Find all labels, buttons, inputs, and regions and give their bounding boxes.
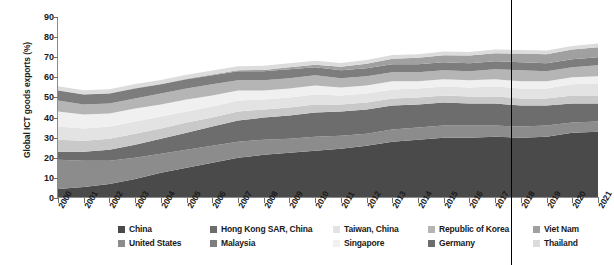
legend-item-united-states[interactable]: United States: [118, 239, 181, 248]
y-tick-label: 80: [32, 33, 54, 42]
y-tick-mark: [54, 97, 58, 98]
y-tick-mark: [54, 138, 58, 139]
y-tick-mark: [54, 198, 58, 199]
y-tick-mark: [54, 118, 58, 119]
plot-area: [58, 17, 598, 198]
y-tick-mark: [54, 77, 58, 78]
legend-item-hong-kong-sar-china[interactable]: Hong Kong SAR, China: [210, 225, 312, 234]
legend-item-malaysia[interactable]: Malaysia: [210, 239, 255, 248]
legend-label: China: [129, 225, 152, 234]
legend-label: United States: [129, 239, 181, 248]
legend-swatch-icon: [333, 226, 340, 233]
y-axis-ticks: 0102030405060708090: [28, 17, 54, 198]
y-tick-label: 0: [32, 194, 54, 203]
legend-label: Germany: [439, 239, 475, 248]
y-tick-mark: [54, 57, 58, 58]
y-tick-label: 50: [32, 93, 54, 102]
x-tick-label: 2021: [596, 189, 614, 210]
legend-swatch-icon: [210, 240, 217, 247]
y-tick-label: 10: [32, 173, 54, 182]
y-tick-label: 20: [32, 153, 54, 162]
y-tick-label: 70: [32, 53, 54, 62]
y-tick-mark: [54, 178, 58, 179]
legend-row: ChinaHong Kong SAR, ChinaTaiwan, ChinaRe…: [118, 225, 598, 238]
legend-item-thailand[interactable]: Thailand: [533, 239, 578, 248]
legend-swatch-icon: [333, 240, 340, 247]
legend-label: Hong Kong SAR, China: [221, 225, 312, 234]
y-tick-mark: [54, 158, 58, 159]
legend-item-viet-nam[interactable]: Viet Nam: [533, 225, 579, 234]
legend-label: Singapore: [344, 239, 384, 248]
legend-label: Taiwan, China: [344, 225, 399, 234]
legend-swatch-icon: [533, 240, 540, 247]
y-tick-label: 30: [32, 133, 54, 142]
y-tick-mark: [54, 17, 58, 18]
legend-item-republic-of-korea[interactable]: Republic of Korea: [428, 225, 509, 234]
y-tick-label: 90: [32, 13, 54, 22]
legend-swatch-icon: [118, 240, 125, 247]
legend-swatch-icon: [428, 226, 435, 233]
legend-swatch-icon: [533, 226, 540, 233]
legend-item-taiwan-china[interactable]: Taiwan, China: [333, 225, 399, 234]
legend-item-germany[interactable]: Germany: [428, 239, 475, 248]
legend-swatch-icon: [118, 226, 125, 233]
legend-label: Thailand: [544, 239, 578, 248]
y-tick-label: 60: [32, 73, 54, 82]
y-tick-label: 40: [32, 113, 54, 122]
legend-label: Viet Nam: [544, 225, 579, 234]
legend-item-singapore[interactable]: Singapore: [333, 239, 384, 248]
y-tick-mark: [54, 37, 58, 38]
legend-swatch-icon: [428, 240, 435, 247]
legend-label: Malaysia: [221, 239, 255, 248]
legend-label: Republic of Korea: [439, 225, 509, 234]
chart-legend: ChinaHong Kong SAR, ChinaTaiwan, ChinaRe…: [118, 225, 598, 255]
stacked-area-plot: [58, 17, 598, 198]
legend-item-china[interactable]: China: [118, 225, 152, 234]
legend-row: United StatesMalaysiaSingaporeGermanyTha…: [118, 239, 598, 252]
legend-swatch-icon: [210, 226, 217, 233]
